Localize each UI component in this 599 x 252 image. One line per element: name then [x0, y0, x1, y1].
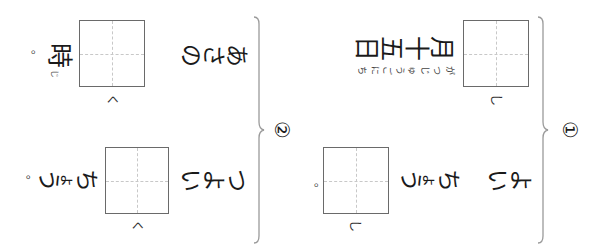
text-ji: 時	[44, 43, 72, 68]
reading-hint-1a: し	[490, 94, 502, 106]
answer-box-2a[interactable]	[79, 20, 145, 87]
brace-2	[252, 16, 262, 244]
answer-box-1b[interactable]	[323, 147, 389, 214]
reading-hint-2b: く	[131, 220, 143, 232]
problem-number-2: ②	[272, 121, 292, 139]
brace-1	[536, 16, 546, 244]
ruby-ji: じ	[50, 70, 58, 78]
text-chou: ちょう	[398, 169, 460, 192]
period-1b: 。	[313, 183, 324, 194]
text-yoi: よい	[486, 169, 532, 192]
text-date: 月十五日	[356, 36, 454, 61]
text-asano: あさの	[172, 44, 248, 67]
reading-hint-1b: し	[349, 220, 361, 232]
text-tsuyoi: つよい	[178, 169, 248, 192]
reading-hint-2a: く	[106, 94, 118, 106]
problem-number-1: ①	[560, 121, 580, 139]
text-chou-end: ちょう。	[14, 169, 98, 192]
answer-box-1a[interactable]	[463, 20, 529, 87]
ruby-date: がつじゅうごにち	[357, 66, 454, 75]
answer-box-2b[interactable]	[105, 147, 169, 214]
period-2a: 。	[30, 50, 41, 61]
